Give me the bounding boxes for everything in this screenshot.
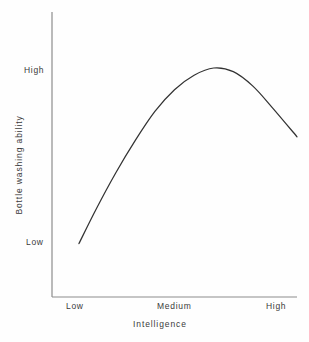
y-axis-tick-high: High (24, 65, 44, 75)
x-axis-tick-high: High (266, 301, 286, 311)
x-axis-tick-medium: Medium (157, 301, 191, 311)
chart-plot-area (0, 0, 309, 342)
data-series-curve (79, 68, 297, 244)
y-axis-title: Bottle washing ability (14, 105, 24, 225)
chart-figure: High Low Low Medium High Intelligence Bo… (0, 0, 309, 342)
x-axis-tick-low: Low (66, 301, 84, 311)
y-axis-tick-low: Low (26, 237, 44, 247)
x-axis-title: Intelligence (133, 319, 187, 329)
